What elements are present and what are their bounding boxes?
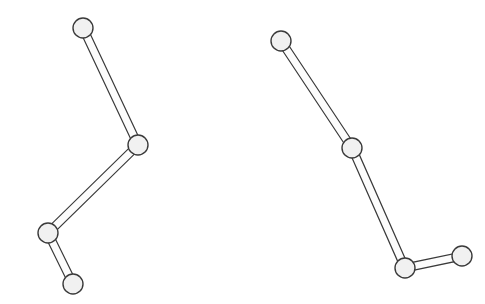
linkage-diagram (0, 0, 485, 304)
left-joint-middle (128, 135, 148, 155)
right-joint-middle (342, 138, 362, 158)
left-joint-top (73, 18, 93, 38)
links-layer (44, 26, 462, 285)
left-link-middle (45, 142, 141, 236)
diagram-canvas (0, 0, 485, 304)
left-link-upper (79, 26, 141, 146)
right-joint-lower (395, 258, 415, 278)
right-joint-top (271, 31, 291, 51)
left-joint-lower (38, 223, 58, 243)
right-joint-end (452, 246, 472, 266)
right-link-upper (278, 39, 356, 150)
right-link-middle (348, 146, 408, 269)
joints-layer (38, 18, 472, 294)
left-joint-bottom (63, 274, 83, 294)
